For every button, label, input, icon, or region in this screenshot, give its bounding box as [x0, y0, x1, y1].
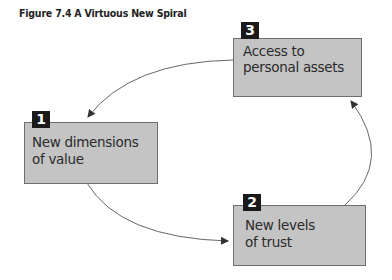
arrow-2-to-3	[345, 101, 372, 205]
node-2-label-line2: of trust	[245, 234, 292, 250]
node-3-label-line1: Access to	[243, 43, 304, 59]
arrow-1-to-2	[87, 183, 228, 241]
node-2-label-line1: New levels	[245, 217, 315, 233]
node-1-label-line2: of value	[32, 151, 84, 167]
node-2-number-badge: 2	[243, 194, 261, 211]
node-1-number-badge: 1	[32, 111, 50, 128]
node-3-label-line2: personal assets	[243, 59, 344, 75]
node-1-label-line1: New dimensions	[32, 134, 139, 150]
node-3-number-badge: 3	[241, 22, 259, 39]
arrow-3-to-1	[88, 60, 233, 117]
